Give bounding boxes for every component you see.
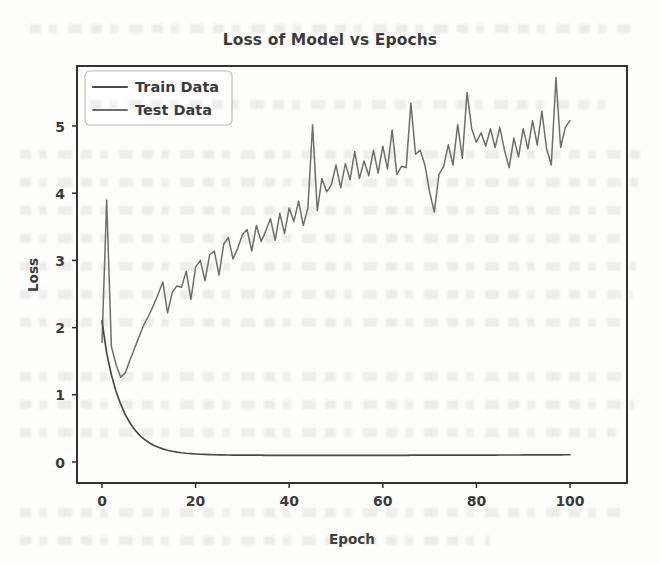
loss-vs-epochs-chart: Loss of Model vs Epochs Loss Epoch 01234…: [0, 0, 660, 563]
y-tick-label: 2: [55, 320, 65, 336]
legend-label-train-data: Train Data: [135, 79, 219, 95]
x-tick-label: 80: [467, 493, 487, 509]
legend-label-test-data: Test Data: [135, 102, 212, 118]
y-tick-label: 0: [55, 455, 65, 471]
y-tick-label: 4: [55, 186, 65, 202]
y-tick-label: 5: [55, 119, 65, 135]
x-axis-label: Epoch: [329, 531, 375, 547]
y-axis-label: Loss: [25, 258, 41, 292]
x-tick-label: 60: [373, 493, 393, 509]
chart-title: Loss of Model vs Epochs: [223, 31, 437, 49]
x-tick-label: 20: [186, 493, 206, 509]
x-tick-label: 0: [97, 493, 107, 509]
y-tick-label: 3: [55, 253, 65, 269]
figure-canvas: Loss of Model vs Epochs Loss Epoch 01234…: [0, 0, 660, 563]
x-axis-ticks: 020406080100: [97, 483, 585, 509]
x-tick-label: 100: [555, 493, 584, 509]
series-line-train-data: [102, 321, 570, 455]
x-tick-label: 40: [279, 493, 299, 509]
y-tick-label: 1: [55, 387, 65, 403]
data-series-group: [102, 78, 570, 456]
chart-legend[interactable]: Train Data Test Data: [85, 71, 232, 125]
y-axis-ticks: 012345: [55, 119, 77, 471]
